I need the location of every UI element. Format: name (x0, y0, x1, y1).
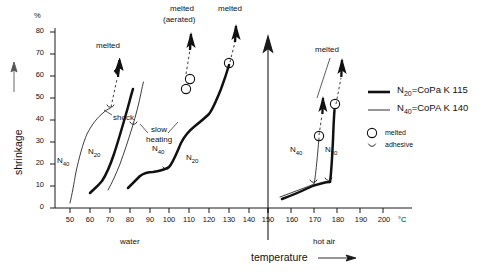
shrinkage-direction-arrow (11, 62, 17, 92)
x-tick-water-110: 110 (180, 216, 198, 224)
legend-swatches (367, 92, 390, 146)
curve-n40-water-slow (108, 82, 144, 190)
curve-label-n20-water-shock: N20 (88, 148, 100, 158)
y-axis-title: shrinkage (12, 129, 24, 175)
annotation-shock: shock (113, 114, 134, 122)
y-axis (50, 28, 55, 208)
x-tick-water-50: 50 (62, 216, 78, 224)
y-tick-20: 20 (26, 159, 44, 167)
adhesive-marker (310, 180, 317, 182)
melted-arrow-hotair-n40 (318, 96, 327, 135)
annotation-melted-1: melted (96, 42, 120, 50)
x-tick-hotair-170: 170 (306, 216, 324, 224)
x-tick-water-130: 130 (220, 216, 238, 224)
x-axis-hotair (268, 208, 412, 213)
legend-entry-n40: N40=CoPA K 140 (397, 103, 468, 115)
curve-label-subscript: 20 (331, 150, 338, 156)
x-tick-water-90: 90 (142, 216, 158, 224)
melted-arrow-hotair-n20 (336, 58, 347, 104)
curve-label-subscript: 20 (94, 152, 101, 158)
x-tick-hotair-200: 200 (375, 216, 393, 224)
curve-label-subscript: 40 (296, 150, 303, 156)
y-tick-10: 10 (26, 181, 44, 189)
x-axis-unit: °C (398, 216, 406, 224)
x-tick-hotair-160: 160 (283, 216, 301, 224)
shrinkage-temperature-chart: 0 10 20 30 40 50 60 70 80 % shrinkage 50… (0, 0, 485, 272)
y-tick-30: 30 (26, 137, 44, 145)
x-tick-water-80: 80 (122, 216, 138, 224)
legend-circle-swatch (367, 128, 376, 137)
curve-label-n40-water-shock: N40 (57, 157, 69, 167)
x-axis-title: temperature (251, 252, 308, 263)
y-tick-40: 40 (26, 115, 44, 123)
legend-entry-n20: N20=CoPa K 115 (397, 85, 468, 97)
legend-entry-melted: melted (385, 129, 406, 136)
y-tick-50: 50 (26, 93, 44, 101)
x-tick-water-60: 60 (82, 216, 98, 224)
x-tick-water-140: 140 (240, 216, 258, 224)
annotation-melted-4: melted (315, 46, 339, 54)
adhesive-markers (107, 105, 332, 182)
adhesive-marker (107, 105, 114, 107)
y-tick-60: 60 (26, 71, 44, 79)
panel-divider-arrow (263, 36, 272, 240)
legend-n40-subscript: 40 (404, 108, 412, 115)
x-tick-water-100: 100 (160, 216, 178, 224)
melted-marker (330, 99, 339, 108)
curve-label-subscript: 20 (192, 158, 199, 164)
x-tick-water-150: 150 (259, 216, 277, 224)
x-tick-hotair-190: 190 (352, 216, 370, 224)
melted-arrow-water-right (230, 24, 241, 62)
melted-arrow-water-shock (111, 58, 124, 107)
curve-label-n20-hotair: N20 (325, 146, 337, 156)
annotation-slow: slow (151, 126, 167, 134)
legend-n20-base: N (397, 84, 404, 95)
curve-label-n20-water-slow: N20 (186, 154, 198, 164)
y-tick-80: 80 (26, 27, 44, 35)
legend-n20-text: =CoPa K 115 (412, 84, 468, 95)
melted-marker (185, 74, 194, 83)
temperature-direction-arrow (318, 255, 356, 261)
melted-marker (181, 84, 190, 93)
legend-hook-swatch (369, 144, 376, 146)
annotation-heating: heating (146, 136, 172, 144)
y-tick-70: 70 (26, 49, 44, 57)
curve-label-n40-water-slow: N40 (152, 145, 164, 155)
panel-label-water: water (120, 238, 140, 246)
annotation-melted-2: melted (170, 5, 194, 13)
annotation-aerated: (aerated) (163, 16, 195, 24)
chart-canvas (0, 0, 485, 272)
x-tick-hotair-180: 180 (329, 216, 347, 224)
legend-entry-adhesive: adhesive (385, 141, 413, 148)
curve-label-subscript: 40 (63, 161, 70, 167)
legend-n20-subscript: 20 (404, 90, 412, 97)
legend-n40-base: N (397, 102, 404, 113)
annotation-melted-3: melted (218, 5, 242, 13)
panel-label-hotair: hot air (313, 238, 335, 246)
curve-label-subscript: 40 (158, 149, 165, 155)
melted-arrow-water-aerated (186, 32, 196, 74)
curve-label-n40-hotair: N40 (290, 146, 302, 156)
y-axis-unit: % (34, 12, 41, 20)
melted-markers (181, 58, 339, 140)
x-tick-water-70: 70 (102, 216, 118, 224)
y-tick-0: 0 (26, 203, 44, 211)
x-axis-water (55, 208, 270, 213)
legend-n40-text: =CoPA K 140 (412, 102, 469, 113)
x-tick-water-120: 120 (200, 216, 218, 224)
